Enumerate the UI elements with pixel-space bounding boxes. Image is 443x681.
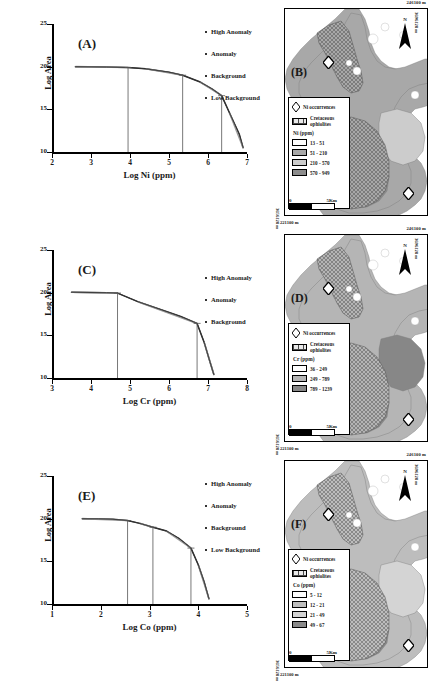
legend-marker — [205, 299, 207, 301]
map-panel-f: (F)NNi occurrencesCretaceous ophiolitesC… — [284, 460, 428, 668]
north-arrow-icon — [398, 249, 412, 275]
map-inclusion — [368, 486, 378, 496]
scale-seg-dark — [290, 656, 312, 661]
x-axis-tick-label: 4 — [120, 159, 140, 167]
ni-occurrence-marker — [323, 56, 334, 69]
map-panel-d: (D)NNi occurrencesCretaceous ophiolitesC… — [284, 234, 428, 442]
map-inclusion — [411, 543, 419, 551]
scale-max: 5Km — [326, 424, 337, 429]
scale-bar-graphic — [289, 429, 335, 436]
x-axis-tick-label: 4 — [188, 611, 208, 619]
chart-legend-item: High Anomaly — [205, 28, 252, 36]
legend-label: Anomaly — [211, 50, 237, 57]
legend-ophiolite-row: Cretaceous ophiolites — [292, 567, 346, 579]
legend-marker — [205, 527, 207, 529]
map-frame: (F)NNi occurrencesCretaceous ophiolitesC… — [284, 460, 428, 668]
legend-class-label: 36 - 249 — [310, 366, 327, 372]
ophiolite-swatch — [292, 118, 307, 125]
map-inclusion — [346, 286, 352, 292]
scale-seg-dark — [290, 430, 312, 435]
chart-legend-item: Anomaly — [205, 502, 237, 510]
scale-seg-dark — [290, 204, 312, 209]
north-arrow: N — [395, 243, 415, 279]
x-axis-tick-label: 2 — [91, 611, 111, 619]
y-axis-tick-label: 20 — [30, 515, 47, 522]
y-axis-tick-label: 20 — [30, 63, 47, 70]
legend-ophiolite-label: Cretaceous ophiolites — [310, 567, 346, 579]
x-axis-tick-label: 3 — [42, 385, 62, 393]
legend-title: Cr (ppm) — [293, 356, 346, 362]
scale-bar: 05Km — [289, 198, 345, 211]
legend-class-row: 12 - 21 — [292, 601, 346, 608]
y-axis-tick-label: 25 — [30, 20, 47, 27]
map-coordinate-right: 3696128 m — [414, 464, 419, 485]
legend-marker — [205, 277, 207, 279]
map-coordinate-bottom: 221100 m — [280, 446, 299, 451]
diamond-icon — [292, 102, 300, 112]
scale-bar-numbers: 05Km — [289, 198, 345, 203]
panel-label: (D) — [291, 291, 308, 306]
x-axis-tick-label: 4 — [81, 385, 101, 393]
figure-row-1: (A)Log Area10152025234567Log Ni (ppm)Hig… — [0, 0, 443, 226]
chart-legend-item: Anomaly — [205, 50, 237, 58]
legend-class-label: 249 - 789 — [310, 376, 330, 382]
ophiolite-swatch — [292, 570, 307, 577]
legend-class-label: 21 - 49 — [310, 612, 324, 618]
plot-area: Log Area1015202512345Log Co (ppm) — [52, 476, 247, 606]
chart-legend-item: Low Background — [205, 546, 260, 554]
legend-marker — [205, 53, 207, 55]
map-coordinate-bottom: 221100 m — [280, 220, 299, 225]
y-axis-tick-label: 10 — [30, 148, 47, 155]
plot-area: Log Area10152025345678Log Cr (ppm) — [52, 250, 247, 380]
class-swatch — [292, 385, 307, 392]
legend-class-row: 210 - 570 — [292, 159, 346, 166]
scale-seg-light — [312, 204, 334, 209]
map-legend: Ni occurrencesCretaceous ophiolitesCo (p… — [288, 549, 350, 661]
legend-class-row: 5 - 12 — [292, 591, 346, 598]
legend-ophiolite-label: Cretaceous ophiolites — [310, 115, 346, 127]
legend-occurrence-row: Ni occurrences — [292, 102, 346, 112]
scale-seg-light — [312, 430, 334, 435]
legend-label: Anomaly — [211, 502, 237, 509]
ni-occurrence-marker — [403, 639, 414, 652]
x-axis-tick-label: 6 — [159, 385, 179, 393]
map-inclusion — [353, 293, 361, 301]
map-coordinate-right: 3696128 m — [414, 12, 419, 33]
map-inclusion — [346, 512, 352, 518]
legend-label: Background — [211, 72, 246, 79]
legend-label: High Anomaly — [211, 480, 252, 487]
legend-class-row: 13 - 51 — [292, 139, 346, 146]
class-swatch — [292, 375, 307, 382]
legend-class-row: 570 - 949 — [292, 169, 346, 176]
x-axis-label: Log Co (ppm) — [52, 622, 247, 632]
x-axis-label: Log Ni (ppm) — [52, 170, 247, 180]
diamond-icon — [292, 328, 300, 338]
map-inclusion — [346, 60, 352, 66]
class-swatch — [292, 365, 307, 372]
y-axis-tick-label: 10 — [30, 600, 47, 607]
legend-marker — [205, 321, 207, 323]
x-axis-tick-label: 3 — [140, 611, 160, 619]
legend-occurrence-label: Ni occurrences — [303, 104, 335, 110]
x-axis-tick-label: 2 — [42, 159, 62, 167]
legend-class-label: 210 - 570 — [310, 160, 330, 166]
map-inclusion — [353, 519, 361, 527]
map-inclusion — [411, 317, 419, 325]
class-swatch — [292, 601, 307, 608]
legend-label: Low Background — [211, 546, 260, 553]
north-arrow: N — [395, 469, 415, 505]
curve-path — [72, 292, 214, 374]
curve-path-overlay — [82, 519, 209, 599]
x-axis-tick-label: 1 — [42, 611, 62, 619]
legend-label: Low Background — [211, 94, 260, 101]
panel-label: (B) — [291, 65, 307, 80]
chart-panel-e: (E)Log Area1015202512345Log Co (ppm)High… — [0, 452, 280, 678]
legend-marker — [205, 483, 207, 485]
map-panel-b: (B)NNi occurrencesCretaceous ophiolitesN… — [284, 8, 428, 216]
map-coordinate-right: 3696128 m — [414, 238, 419, 259]
scale-bar-graphic — [289, 655, 335, 662]
x-axis-tick-label: 6 — [198, 159, 218, 167]
legend-marker — [205, 31, 207, 33]
scale-bar-numbers: 05Km — [289, 650, 345, 655]
map-inclusion — [381, 249, 389, 257]
